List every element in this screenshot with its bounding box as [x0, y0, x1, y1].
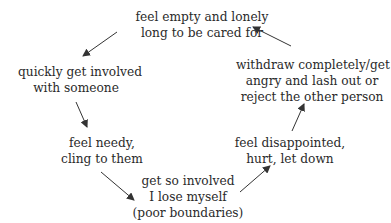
node-line: feel disappointed, [232, 135, 348, 151]
node-line: quickly get involved [18, 64, 134, 80]
node-line: (poor boundaries) [130, 205, 246, 221]
arrow-n2-to-n3-icon [76, 102, 87, 127]
node-line: I lose myself [130, 189, 246, 205]
node-line: feel needy, [57, 135, 147, 151]
node-line: withdraw completely/get [236, 57, 388, 73]
node-line: long to be cared for [128, 25, 276, 41]
node-withdraw: withdraw completely/get angry and lash o… [236, 57, 388, 105]
arrow-n1-to-n2-icon [83, 32, 117, 56]
node-lose-myself: get so involved I lose myself (poor boun… [130, 173, 246, 221]
node-feel-needy: feel needy, cling to them [57, 135, 147, 167]
node-line: get so involved [130, 173, 246, 189]
node-line: angry and lash out or [236, 73, 388, 89]
node-quickly-involved: quickly get involved with someone [18, 64, 134, 96]
node-line: with someone [18, 80, 134, 96]
node-line: feel empty and lonely [128, 9, 276, 25]
node-line: cling to them [57, 151, 147, 167]
node-line: reject the other person [236, 89, 388, 105]
node-line: hurt, let down [232, 151, 348, 167]
node-feel-empty: feel empty and lonely long to be cared f… [128, 9, 276, 41]
node-feel-disappointed: feel disappointed, hurt, let down [232, 135, 348, 167]
cycle-diagram: feel empty and lonely long to be cared f… [0, 0, 391, 223]
arrow-n5-to-n6-icon [292, 104, 304, 131]
